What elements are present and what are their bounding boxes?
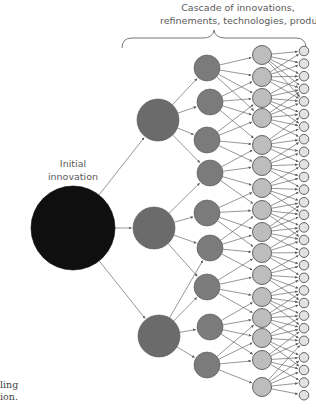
arrow-connector: [271, 389, 297, 394]
level5-node: [299, 210, 309, 220]
arrow-connector: [270, 171, 298, 187]
level5-node: [299, 311, 309, 321]
arrow-connector: [270, 361, 299, 381]
cropped-caption: ling ion.: [0, 379, 60, 403]
level5-node: [299, 365, 309, 375]
level5-node: [299, 185, 309, 195]
cascade-label-line2: refinements, technologies, products: [160, 14, 316, 27]
arrow-connector: [220, 216, 253, 240]
level3-node: [194, 127, 220, 153]
initial-innovation-node: [31, 186, 115, 270]
arrow-connector: [221, 302, 252, 320]
arrow-connector: [220, 277, 252, 284]
level4-node: [253, 288, 272, 307]
arrow-connector: [271, 115, 297, 118]
arrow-connector: [268, 62, 299, 97]
level4-node: [253, 201, 272, 220]
level4-node: [253, 329, 272, 348]
arrow-connector: [271, 358, 297, 360]
arrow-connector: [218, 221, 254, 247]
arrow-connector: [270, 118, 299, 140]
arrow-connector: [220, 289, 251, 295]
level3-node: [197, 160, 223, 186]
level5-node: [299, 323, 309, 333]
level4-node: [253, 136, 272, 155]
arrow-connector: [220, 141, 251, 144]
cascade-label: Cascade of innovations, refinements, tec…: [160, 1, 316, 27]
arrow-connector: [271, 140, 297, 144]
arrow-connector: [168, 244, 197, 277]
arrow-connector: [270, 365, 298, 380]
level5-node: [299, 172, 309, 182]
arrow-connector: [220, 110, 254, 138]
arrow-connector: [221, 150, 252, 167]
level5-node: [299, 235, 309, 245]
level3-node: [194, 200, 220, 226]
arrow-connector: [223, 249, 251, 252]
level3-node: [197, 314, 223, 340]
arrow-connector: [271, 316, 297, 317]
arrow-connector: [99, 261, 145, 319]
arrow-connector: [222, 177, 251, 185]
level4-node: [253, 109, 272, 128]
arrow-connector: [219, 370, 252, 383]
arrow-connector: [217, 105, 253, 132]
level3-node: [197, 235, 223, 261]
arrow-connector: [222, 106, 251, 115]
level4-node: [253, 378, 272, 397]
arrow-connector: [177, 347, 195, 358]
level2-node: [137, 99, 179, 141]
level4-node: [253, 244, 272, 263]
level5-node: [299, 71, 309, 81]
level3-node: [194, 274, 220, 300]
arrow-connector: [218, 259, 253, 280]
level5-node: [299, 59, 309, 69]
level5-node: [299, 260, 309, 270]
cascade-label-line1: Cascade of innovations,: [160, 1, 316, 14]
level4-node: [253, 89, 272, 108]
level5-node: [299, 84, 309, 94]
arrow-connector: [174, 217, 193, 222]
level5-node: [299, 97, 309, 107]
nodes-group: [31, 46, 309, 401]
initial-innovation-label: Initial innovation: [38, 157, 108, 183]
level4-node: [253, 351, 272, 370]
level3-node: [194, 55, 220, 81]
arrow-connector: [222, 235, 251, 244]
level5-node: [299, 147, 309, 157]
level2-node: [138, 315, 180, 357]
level5-node: [299, 122, 309, 132]
cascade-diagram: [0, 0, 316, 414]
arrow-connector: [271, 188, 297, 189]
level5-node: [299, 134, 309, 144]
level5-node: [299, 390, 309, 400]
arrow-connector: [271, 147, 297, 151]
initial-label-line2: innovation: [38, 170, 108, 183]
arrow-connector: [270, 231, 299, 248]
arrow-connector: [270, 167, 298, 183]
arrow-connector: [271, 343, 299, 356]
level5-node: [299, 336, 309, 346]
level5-node: [299, 46, 309, 56]
arrow-connector: [271, 52, 297, 55]
arrow-connector: [220, 361, 251, 364]
arrow-connector: [271, 228, 297, 231]
level4-node: [253, 157, 272, 176]
level4-node: [253, 68, 272, 87]
caption-line2: ion.: [0, 391, 60, 403]
level5-node: [299, 353, 309, 363]
arrow-connector: [271, 203, 297, 208]
arrow-connector: [172, 79, 197, 105]
level3-node: [197, 89, 223, 115]
arrow-connector: [219, 193, 252, 208]
arrow-connector: [178, 107, 196, 113]
arrow-connector: [271, 168, 298, 175]
level5-node: [299, 273, 309, 283]
arrow-connector: [220, 70, 251, 75]
arrow-connector: [271, 383, 297, 386]
arrow-connector: [271, 165, 297, 166]
arrow-connector: [271, 211, 297, 214]
arrow-connector: [219, 122, 252, 135]
arrow-connector: [218, 293, 252, 312]
arrow-connector: [271, 339, 297, 341]
